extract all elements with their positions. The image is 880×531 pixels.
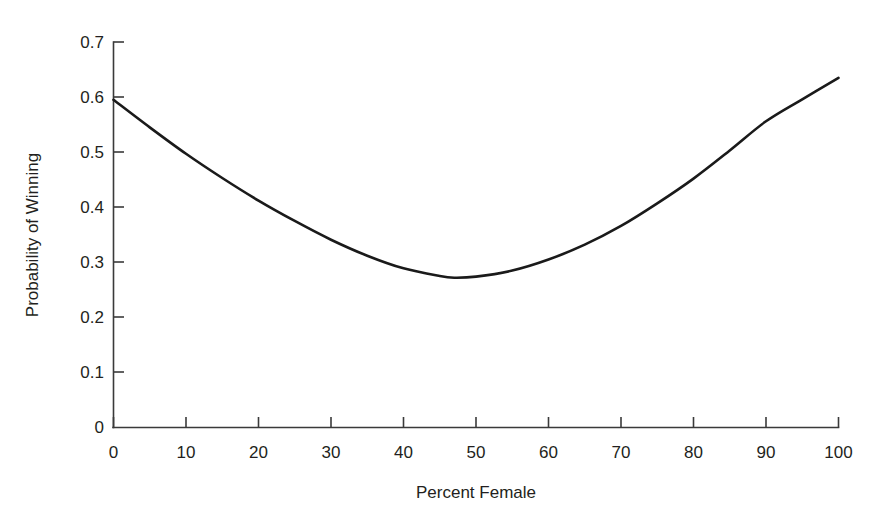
x-tick-label: 90	[757, 443, 776, 462]
x-tick-label: 40	[394, 443, 413, 462]
y-tick-label: 0.2	[80, 308, 104, 327]
x-tick-label: 70	[612, 443, 631, 462]
x-tick-label: 10	[177, 443, 196, 462]
x-tick-label: 60	[539, 443, 558, 462]
x-tick-label: 50	[467, 443, 486, 462]
y-tick-label: 0.7	[80, 33, 104, 52]
x-tick-label: 0	[109, 443, 118, 462]
y-tick-label: 0	[95, 418, 104, 437]
x-tick-label: 80	[684, 443, 703, 462]
chart-figure: 0.7 0.6 0.5 0.4 0.3 0.2 0.1 0 0 10	[0, 0, 880, 531]
y-tick-label: 0.5	[80, 143, 104, 162]
y-tick-label: 0.3	[80, 253, 104, 272]
chart-background	[0, 0, 880, 531]
y-tick-label: 0.4	[80, 198, 104, 217]
x-tick-label: 20	[249, 443, 268, 462]
y-tick-label: 0.6	[80, 88, 104, 107]
x-axis-title: Percent Female	[416, 483, 536, 502]
probability-of-winning-line-chart: 0.7 0.6 0.5 0.4 0.3 0.2 0.1 0 0 10	[0, 0, 880, 531]
x-tick-label: 100	[824, 443, 852, 462]
y-tick-label: 0.1	[80, 363, 104, 382]
y-axis-title: Probability of Winning	[23, 153, 42, 317]
x-tick-label: 30	[322, 443, 341, 462]
